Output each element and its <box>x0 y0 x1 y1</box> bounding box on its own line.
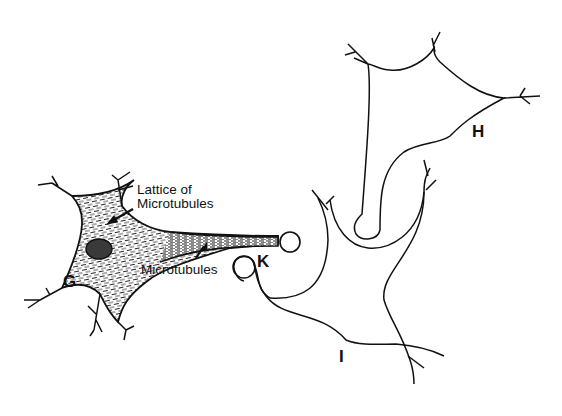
label-i: I <box>339 348 344 365</box>
lattice-label-line2: Microtubules <box>137 197 214 211</box>
lattice-label-line1: Lattice of <box>137 183 192 197</box>
nucleus <box>86 239 112 259</box>
microtubules-label: Microtubules <box>141 263 218 277</box>
neuron-h <box>345 32 540 239</box>
label-g: G <box>63 273 76 290</box>
neuron-diagram: Lattice of Microtubules Microtubules G K… <box>0 0 562 416</box>
label-k: K <box>257 253 269 270</box>
label-h: H <box>472 123 484 140</box>
neuron-drawing <box>0 0 562 416</box>
